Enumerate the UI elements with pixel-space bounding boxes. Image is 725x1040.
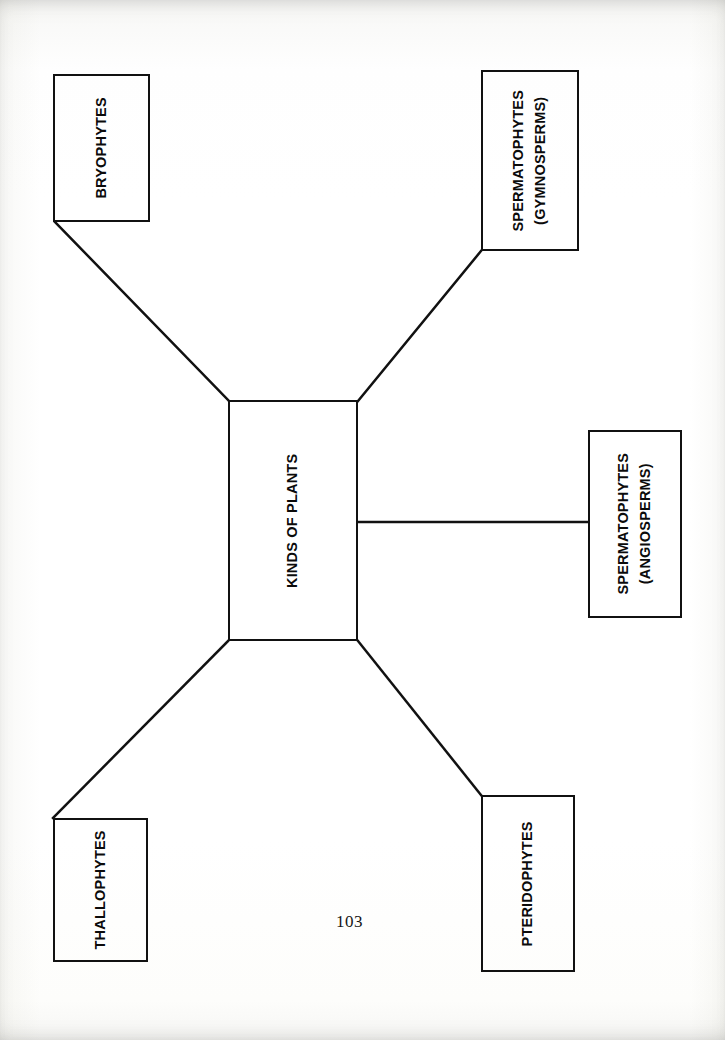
node-pteridophytes[interactable]: PTERIDOPHYTES xyxy=(481,795,575,972)
node-spermatophytes-angiosperms[interactable]: SPERMATOPHYTES (ANGIOSPERMS) xyxy=(588,430,682,618)
node-spermatophytes-gymnosperms-text: SPERMATOPHYTES (GYMNOSPERMS) xyxy=(508,90,552,232)
node-bryophytes-text: BRYOPHYTES xyxy=(91,97,113,198)
connector-root-to-thallophytes xyxy=(53,641,228,818)
connector-root-to-pteridophytes xyxy=(358,641,481,795)
node-spermatophytes-angiosperms-sublabel: (ANGIOSPERMS) xyxy=(635,453,657,595)
node-bryophytes[interactable]: BRYOPHYTES xyxy=(53,74,150,222)
node-pteridophytes-label: PTERIDOPHYTES xyxy=(519,821,535,946)
node-spermatophytes-angiosperms-label: SPERMATOPHYTES xyxy=(615,453,631,595)
node-thallophytes-label: THALLOPHYTES xyxy=(92,830,108,949)
page-number: 103 xyxy=(336,912,363,932)
node-kinds-of-plants[interactable]: KINDS OF PLANTS xyxy=(228,400,358,641)
node-spermatophytes-gymnosperms-sublabel: (GYMNOSPERMS) xyxy=(530,90,552,232)
node-spermatophytes-gymnosperms[interactable]: SPERMATOPHYTES (GYMNOSPERMS) xyxy=(481,70,579,251)
node-bryophytes-label: BRYOPHYTES xyxy=(93,97,109,198)
connector-root-to-gymnosperms xyxy=(358,251,481,401)
node-kinds-of-plants-text: KINDS OF PLANTS xyxy=(282,453,304,587)
node-spermatophytes-gymnosperms-label: SPERMATOPHYTES xyxy=(510,90,526,232)
node-pteridophytes-text: PTERIDOPHYTES xyxy=(517,821,539,946)
connector-root-to-bryophytes xyxy=(55,222,228,400)
node-kinds-of-plants-label: KINDS OF PLANTS xyxy=(284,453,300,587)
node-thallophytes-text: THALLOPHYTES xyxy=(90,830,112,949)
node-thallophytes[interactable]: THALLOPHYTES xyxy=(53,818,148,962)
scanned-page: BRYOPHYTES SPERMATOPHYTES (GYMNOSPERMS) … xyxy=(0,0,725,1040)
node-spermatophytes-angiosperms-text: SPERMATOPHYTES (ANGIOSPERMS) xyxy=(613,453,657,595)
